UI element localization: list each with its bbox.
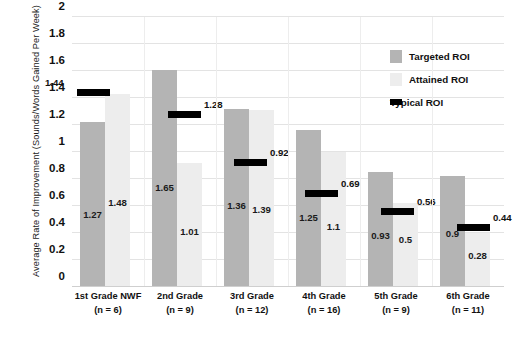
- x-axis-sample-size: (n = 12): [216, 304, 288, 318]
- y-axis-tick-label: 0.2: [49, 243, 65, 255]
- y-axis-tick-label: 0.6: [49, 189, 65, 201]
- group-separator: [288, 17, 289, 287]
- x-axis-sample-size: (n = 9): [144, 304, 216, 318]
- y-axis-tick-label: 0.4: [49, 216, 65, 228]
- marker-typical-roi[interactable]: [168, 111, 201, 118]
- bar-targeted-roi[interactable]: [296, 130, 321, 287]
- x-axis-category-name: 6th Grade: [446, 291, 489, 301]
- x-axis-category-label: 2nd Grade(n = 9): [144, 290, 216, 317]
- top-artifact: [220, 0, 223, 8]
- marker-value-label-typical: 0.92: [270, 147, 289, 158]
- y-axis-tick-label: 1.6: [49, 54, 65, 66]
- group-separator: [360, 17, 361, 287]
- y-axis-tick-label: 0: [59, 270, 65, 282]
- bar-group: 1.361.390.92: [216, 17, 288, 287]
- legend-item[interactable]: Targeted ROI: [390, 46, 515, 66]
- bar-targeted-roi[interactable]: [224, 109, 249, 287]
- bar-attained-roi[interactable]: [249, 110, 274, 287]
- x-axis-category-label: 4th Grade(n = 16): [288, 290, 360, 317]
- y-axis-tick-label: 1.8: [49, 27, 65, 39]
- marker-typical-roi[interactable]: [381, 208, 414, 215]
- bar-value-label-attained: 1.01: [180, 225, 199, 236]
- bar-value-label-attained: 0.28: [468, 249, 487, 260]
- bar-value-label-targeted: 1.65: [155, 182, 174, 193]
- x-axis-category-name: 5th Grade: [374, 291, 417, 301]
- legend-swatch-typical: [390, 99, 402, 105]
- legend-label: Targeted ROI: [409, 51, 470, 62]
- bar-targeted-roi[interactable]: [152, 70, 177, 287]
- x-axis-category-name: 2nd Grade: [157, 291, 203, 301]
- bar-value-label-targeted: 1.27: [83, 208, 102, 219]
- bar-attained-roi[interactable]: [393, 203, 418, 287]
- bar-group: 1.651.011.28: [144, 17, 216, 287]
- x-axis-category-label: 5th Grade(n = 9): [360, 290, 432, 317]
- marker-value-label-typical: 0.44: [493, 212, 512, 223]
- marker-value-label-typical: 0.69: [341, 178, 360, 189]
- legend-item[interactable]: Attained ROI: [390, 69, 515, 89]
- y-axis-tick-label: 1.2: [49, 108, 65, 120]
- y-axis-title: Average Rate of Improvement (Sounds/Word…: [30, 1, 42, 281]
- bar-group: 1.271.481.44: [72, 17, 144, 287]
- y-axis-tick-label: 2: [59, 0, 65, 12]
- bar-chart-figure: Average Rate of Improvement (Sounds/Word…: [0, 0, 517, 337]
- bar-targeted-roi[interactable]: [80, 122, 105, 287]
- x-axis-sample-size: (n = 6): [72, 304, 144, 318]
- marker-typical-roi[interactable]: [305, 190, 338, 197]
- x-axis-category-label: 6th Grade(n = 11): [432, 290, 504, 317]
- legend-item[interactable]: Typical ROI: [390, 92, 515, 112]
- y-axis-tick-label: 0.8: [49, 162, 65, 174]
- x-axis-baseline: [72, 286, 504, 287]
- marker-typical-roi[interactable]: [457, 224, 490, 231]
- legend-swatch-attained: [390, 73, 402, 86]
- marker-typical-roi[interactable]: [77, 89, 110, 96]
- bar-value-label-targeted: 0.93: [371, 229, 390, 240]
- legend-swatch-targeted: [390, 50, 402, 63]
- x-axis-category-label: 1st Grade NWF(n = 6): [72, 290, 144, 317]
- bar-attained-roi[interactable]: [321, 152, 346, 287]
- chart-legend: Targeted ROIAttained ROITypical ROI: [390, 46, 515, 115]
- group-separator: [216, 17, 217, 287]
- x-axis-category-label: 3rd Grade(n = 12): [216, 290, 288, 317]
- bar-value-label-attained: 1.1: [327, 221, 340, 232]
- marker-value-label-typical: 1.44: [45, 77, 64, 88]
- bar-value-label-targeted: 1.25: [299, 212, 318, 223]
- bar-value-label-targeted: 1.36: [227, 199, 246, 210]
- bar-value-label-attained: 1.39: [252, 203, 271, 214]
- bar-attained-roi[interactable]: [105, 94, 130, 287]
- x-axis-category-name: 3rd Grade: [230, 291, 274, 301]
- x-axis-sample-size: (n = 16): [288, 304, 360, 318]
- x-axis-labels: 1st Grade NWF(n = 6)2nd Grade(n = 9)3rd …: [72, 290, 504, 334]
- x-axis-sample-size: (n = 11): [432, 304, 504, 318]
- bar-group: 1.251.10.69: [288, 17, 360, 287]
- x-axis-sample-size: (n = 9): [360, 304, 432, 318]
- x-axis-category-name: 1st Grade NWF: [75, 291, 142, 301]
- legend-label: Attained ROI: [409, 74, 468, 85]
- bar-value-label-attained: 1.48: [108, 196, 127, 207]
- y-axis-tick-label: 1: [59, 135, 65, 147]
- bar-value-label-attained: 0.5: [399, 234, 412, 245]
- x-axis-category-name: 4th Grade: [302, 291, 345, 301]
- marker-typical-roi[interactable]: [234, 159, 267, 166]
- group-separator: [144, 17, 145, 287]
